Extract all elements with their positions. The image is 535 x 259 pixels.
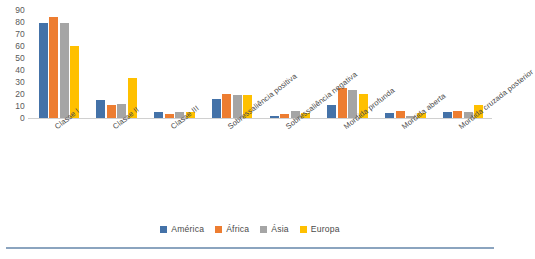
bar-áfrica-5[interactable]: [338, 88, 347, 118]
bar-áfrica-3[interactable]: [222, 94, 231, 118]
bar-américa-2[interactable]: [154, 112, 163, 118]
bar-group: [30, 10, 88, 118]
y-axis-tick-label: 40: [15, 65, 25, 75]
legend-item-américa[interactable]: América: [160, 224, 204, 234]
bar-áfrica-1[interactable]: [107, 105, 116, 118]
y-axis-tick-label: 0: [20, 113, 25, 123]
bar-áfrica-7[interactable]: [453, 111, 462, 118]
bar-américa-6[interactable]: [385, 113, 394, 118]
bar-group: [261, 10, 319, 118]
bar-américa-3[interactable]: [212, 99, 221, 118]
bar-ásia-0[interactable]: [60, 23, 69, 118]
bar-américa-1[interactable]: [96, 100, 105, 118]
legend-swatch-icon: [215, 226, 222, 233]
legend-item-ásia[interactable]: Ásia: [260, 224, 289, 234]
bar-américa-0[interactable]: [39, 23, 48, 118]
bar-group: [88, 10, 146, 118]
legend-label: Ásia: [271, 224, 289, 234]
bar-group: [146, 10, 204, 118]
legend-swatch-icon: [300, 226, 307, 233]
bar-áfrica-4[interactable]: [280, 114, 289, 118]
y-axis-tick-label: 60: [15, 41, 25, 51]
bar-américa-5[interactable]: [327, 105, 336, 118]
bar-américa-4[interactable]: [270, 116, 279, 118]
bar-group: [377, 10, 435, 118]
y-axis-tick-label: 20: [15, 89, 25, 99]
legend-swatch-icon: [160, 226, 167, 233]
bottom-divider-rule: [6, 247, 494, 249]
y-axis-tick-label: 30: [15, 77, 25, 87]
legend-swatch-icon: [260, 226, 267, 233]
bar-áfrica-2[interactable]: [165, 114, 174, 118]
legend-label: América: [171, 224, 204, 234]
bar-group: [319, 10, 377, 118]
y-axis-tick-label: 80: [15, 17, 25, 27]
y-axis: 0102030405060708090: [0, 10, 28, 118]
chart-legend: AméricaÁfricaÁsiaEuropa: [0, 224, 500, 234]
y-axis-tick-label: 90: [15, 5, 25, 15]
bar-áfrica-6[interactable]: [396, 111, 405, 118]
bar-áfrica-0[interactable]: [49, 17, 58, 118]
x-axis-line: [28, 118, 492, 119]
legend-item-europa[interactable]: Europa: [300, 224, 340, 234]
y-axis-tick-label: 50: [15, 53, 25, 63]
y-axis-tick-label: 10: [15, 101, 25, 111]
legend-label: África: [226, 224, 249, 234]
bar-américa-7[interactable]: [443, 112, 452, 118]
legend-item-áfrica[interactable]: África: [215, 224, 249, 234]
legend-label: Europa: [311, 224, 340, 234]
y-axis-tick-label: 70: [15, 29, 25, 39]
